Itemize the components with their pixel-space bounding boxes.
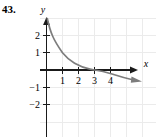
y-tick-label-minus1: −1 — [29, 82, 40, 93]
graph-svg: y x 1 2 3 4 2 1 −1 −2 — [0, 0, 158, 137]
x-tick-label-2: 2 — [76, 75, 81, 86]
x-tick-label-4: 4 — [108, 75, 113, 86]
curve-path — [47, 19, 135, 81]
y-axis-label: y — [40, 4, 46, 15]
figure-page: 43. — [0, 0, 158, 137]
y-tick-label-1: 1 — [35, 47, 40, 58]
curve-arrowhead — [131, 76, 142, 82]
x-tick-label-1: 1 — [60, 75, 65, 86]
x-axis — [40, 67, 138, 74]
x-axis-label: x — [143, 58, 149, 69]
x-axis-arrowhead — [130, 67, 138, 74]
gridlines — [40, 18, 156, 137]
x-tick-label-3: 3 — [92, 75, 97, 86]
y-tick-label-2: 2 — [35, 30, 40, 41]
graph-figure: y x 1 2 3 4 2 1 −1 −2 — [0, 0, 158, 137]
y-tick-label-minus2: −2 — [29, 99, 40, 110]
